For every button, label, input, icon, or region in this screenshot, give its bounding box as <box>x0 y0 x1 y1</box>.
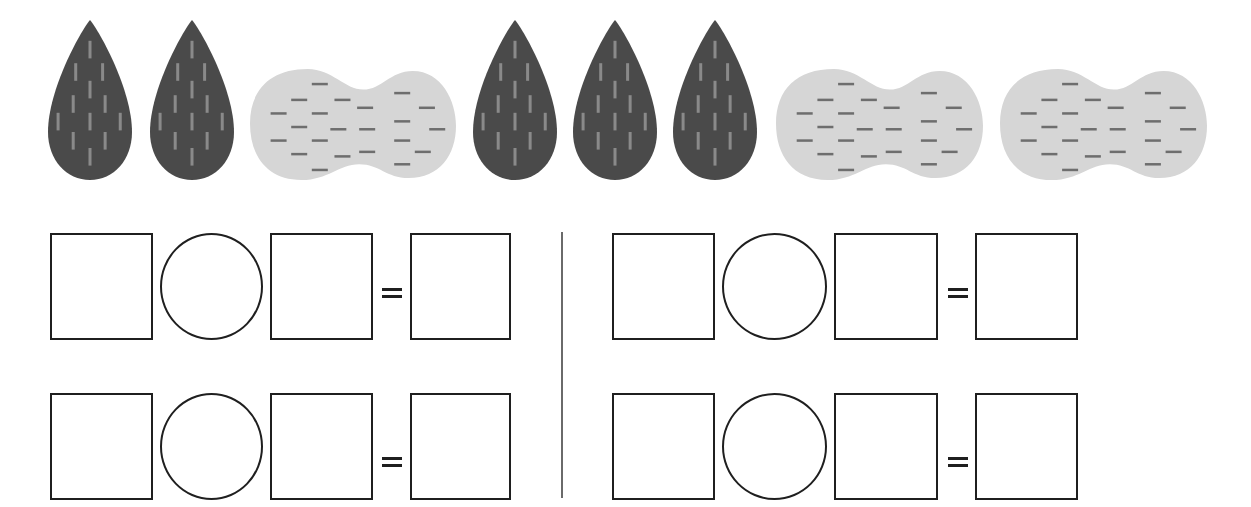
operator-circle[interactable] <box>722 233 827 340</box>
operand2-box[interactable] <box>834 393 938 500</box>
equals-sign <box>948 286 968 300</box>
operand2-box[interactable] <box>834 233 938 340</box>
operator-circle[interactable] <box>722 393 827 500</box>
result-box[interactable] <box>410 393 511 500</box>
peanut-icon <box>776 67 983 180</box>
column-divider <box>561 232 563 498</box>
almond-icon <box>573 20 657 180</box>
operator-circle[interactable] <box>160 393 263 500</box>
equals-sign <box>948 455 968 469</box>
almond-icon <box>48 20 132 180</box>
peanut-icon <box>1000 67 1207 180</box>
equals-sign <box>382 455 402 469</box>
operand1-box[interactable] <box>50 233 153 340</box>
operand1-box[interactable] <box>612 233 715 340</box>
almond-icon <box>150 20 234 180</box>
operand2-box[interactable] <box>270 233 373 340</box>
operator-circle[interactable] <box>160 233 263 340</box>
result-box[interactable] <box>410 233 511 340</box>
operand2-box[interactable] <box>270 393 373 500</box>
result-box[interactable] <box>975 233 1078 340</box>
equals-sign <box>382 286 402 300</box>
almond-icon <box>673 20 757 180</box>
operand1-box[interactable] <box>612 393 715 500</box>
peanut-icon <box>250 67 456 180</box>
picture-row <box>0 0 1251 200</box>
almond-icon <box>473 20 557 180</box>
operand1-box[interactable] <box>50 393 153 500</box>
result-box[interactable] <box>975 393 1078 500</box>
